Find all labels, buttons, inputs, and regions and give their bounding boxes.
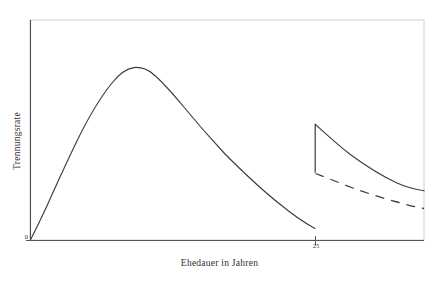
chart-container: 0 25 Ehedauer in Jahren Trennungsrate [0,0,439,286]
plot-frame [30,20,424,240]
x-axis-title: Ehedauer in Jahren [0,258,439,268]
y-axis-title: Trennungsrate [12,81,22,201]
x-axis-tick-label-25: 25 [306,242,326,249]
y-axis-origin-label: 0 [16,233,28,240]
separation-rate-line-chart [0,0,439,286]
